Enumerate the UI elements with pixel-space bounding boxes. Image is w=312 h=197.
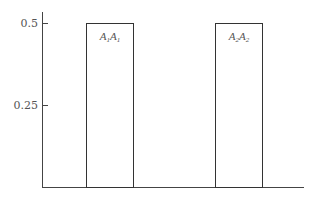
y-tick-label-0.5: 0.5: [21, 17, 39, 30]
y-tick-label-0.25: 0.25: [14, 99, 39, 112]
chart: 0.5 0.25 A1A1 A2A2: [0, 0, 312, 197]
bar-a1a1: [87, 24, 134, 188]
bar-a2a2: [216, 24, 263, 188]
